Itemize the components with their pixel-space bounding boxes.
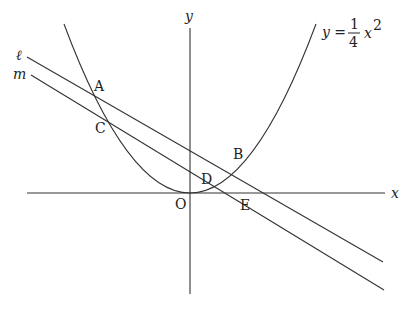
equation-exponent: 2 (373, 17, 382, 33)
x-axis-label: x (391, 185, 399, 201)
equation-var: x (364, 25, 372, 41)
parabola-lines-diagram: x y O ℓ m A C B D E y = 1 4 x 2 (0, 0, 408, 309)
line-l (27, 57, 383, 262)
equation-coef-denominator: 4 (349, 34, 358, 50)
point-c-label: C (95, 120, 106, 136)
line-l-label: ℓ (16, 47, 22, 63)
point-a-label: A (93, 78, 105, 94)
origin-label: O (175, 196, 186, 212)
y-axis-label: y (184, 8, 194, 24)
equation-label: y = 1 4 x 2 (321, 16, 382, 50)
point-e-label: E (240, 197, 250, 213)
point-d-label: D (201, 171, 212, 187)
line-m-label: m (13, 66, 26, 82)
equation-coef-numerator: 1 (350, 16, 359, 32)
point-b-label: B (233, 146, 243, 162)
equation-lhs: y = (321, 24, 346, 40)
